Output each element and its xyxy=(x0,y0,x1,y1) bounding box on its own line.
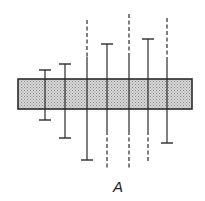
figure-label: A xyxy=(112,178,123,195)
line-intercept-diagram: A xyxy=(0,0,205,201)
shaded-band xyxy=(18,79,192,109)
